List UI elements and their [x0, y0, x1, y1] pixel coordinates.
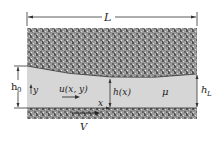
- slider-bearing-diagram: L h 0 y u(x, y) x h(x) μ: [0, 0, 220, 142]
- hx-label: h(x): [113, 87, 131, 97]
- x-axis-label: x: [98, 98, 103, 108]
- y-axis: y: [30, 84, 40, 95]
- svg-text:0: 0: [17, 86, 21, 94]
- hL-dimension: h L: [196, 75, 213, 107]
- wall-velocity-label: V: [80, 121, 89, 132]
- length-label: L: [103, 11, 111, 24]
- h0-dimension: h 0: [10, 67, 22, 107]
- svg-text:L: L: [206, 90, 212, 98]
- velocity-field-label: u(x, y): [59, 84, 88, 94]
- length-dimension: L: [27, 11, 197, 26]
- lower-moving-wall: [27, 108, 197, 119]
- svg-text:y: y: [32, 85, 39, 95]
- upper-slider-block: [27, 28, 197, 78]
- viscosity-label: μ: [162, 86, 169, 97]
